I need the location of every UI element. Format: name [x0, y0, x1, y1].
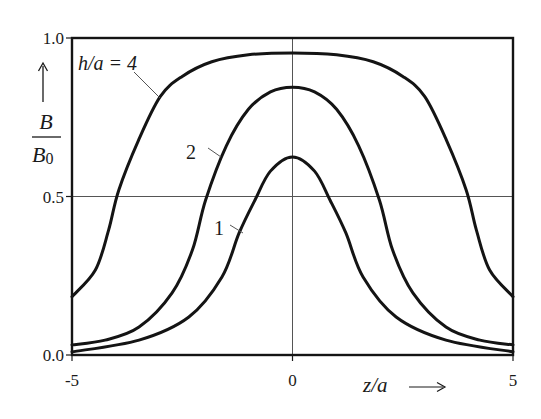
curve-label-h2-leader — [208, 148, 221, 157]
curve-label-h4-leader — [134, 72, 160, 98]
y-label-denominator: B0 — [32, 142, 53, 167]
curve-label-h4: h/a = 4 — [78, 52, 137, 74]
y-tick-label: 1.0 — [43, 29, 64, 48]
y-axis-label: B B0 — [32, 63, 61, 167]
x-label-text: z/a — [362, 373, 388, 397]
curve-label-h2: 2 — [186, 141, 196, 163]
x-axis-label: z/a — [362, 373, 445, 397]
y-label-numerator: B — [39, 109, 52, 134]
x-tick-label: 5 — [509, 371, 518, 390]
reference-lines — [72, 38, 513, 355]
x-tick-label: -5 — [65, 371, 79, 390]
x-tick-label: 0 — [288, 371, 297, 390]
magnetic-field-chart: 0.00.51.0-505 B B0 z/a h/a = 4 2 1 — [0, 0, 541, 419]
y-tick-label: 0.0 — [43, 346, 64, 365]
y-tick-label: 0.5 — [43, 188, 64, 207]
curve-annotations: h/a = 4 2 1 — [78, 52, 243, 239]
curve-label-h1: 1 — [214, 217, 224, 239]
